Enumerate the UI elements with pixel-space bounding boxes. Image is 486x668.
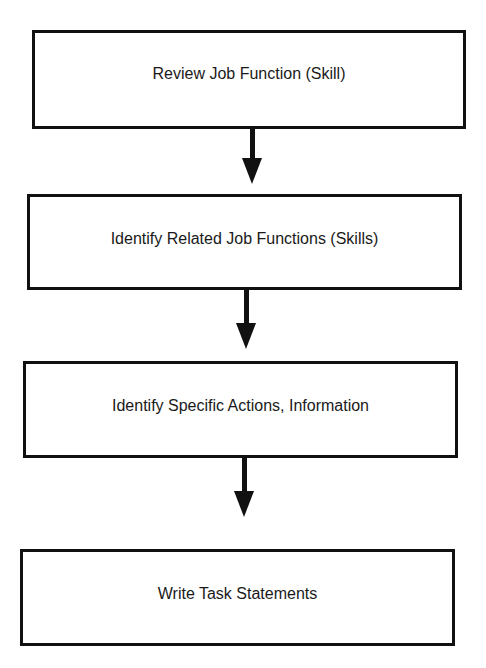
step-3-box: Identify Specific Actions, Information xyxy=(23,361,458,458)
step-1-label: Review Job Function (Skill) xyxy=(153,65,346,83)
step-4-label: Write Task Statements xyxy=(158,585,317,603)
arrow-2-icon xyxy=(236,289,256,351)
step-2-box: Identify Related Job Functions (Skills) xyxy=(27,194,462,290)
step-2-label: Identify Related Job Functions (Skills) xyxy=(111,230,379,248)
step-3-label: Identify Specific Actions, Information xyxy=(112,397,369,415)
arrow-1-icon xyxy=(242,128,262,184)
step-4-box: Write Task Statements xyxy=(20,549,455,646)
arrow-3-icon xyxy=(234,457,254,519)
step-1-box: Review Job Function (Skill) xyxy=(32,30,466,129)
